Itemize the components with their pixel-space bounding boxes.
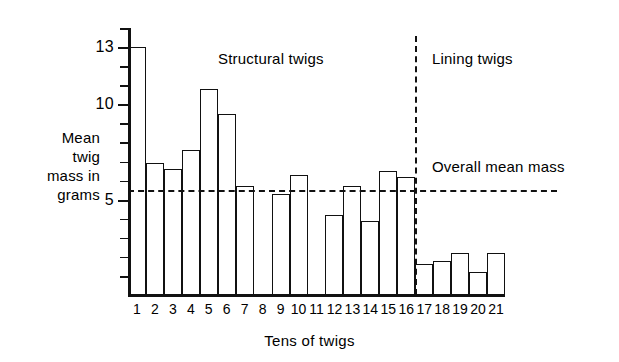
y-axis-tick — [120, 162, 128, 164]
y-axis-tick — [120, 276, 128, 278]
bar — [272, 194, 290, 295]
x-axis-tick-label: 4 — [182, 301, 200, 317]
x-axis-tick-label: 16 — [397, 301, 415, 317]
bar — [361, 221, 379, 295]
x-axis-tick-label: 2 — [146, 301, 164, 317]
bar — [487, 253, 505, 295]
bar — [325, 215, 343, 295]
y-axis-tick — [120, 142, 128, 144]
overall-mean-mass-line — [128, 190, 557, 192]
bar — [164, 169, 182, 295]
bar — [451, 253, 469, 295]
y-axis-tick — [120, 66, 128, 68]
x-axis-tick-label: 9 — [272, 301, 290, 317]
y-axis-tick — [120, 123, 128, 125]
bar — [146, 163, 164, 295]
x-axis-tick-label: 8 — [254, 301, 272, 317]
x-axis-title: Tens of twigs — [0, 332, 619, 349]
y-axis-tick-label: 5 — [80, 192, 114, 208]
annotation-lining-twigs: Lining twigs — [432, 50, 513, 67]
annotation-structural-twigs: Structural twigs — [218, 50, 324, 67]
x-axis-tick-label: 5 — [200, 301, 218, 317]
y-axis-tick — [120, 28, 128, 30]
x-axis-tick-label: 10 — [290, 301, 308, 317]
bar — [218, 114, 236, 295]
x-axis-tick-label: 7 — [236, 301, 254, 317]
bar — [397, 177, 415, 295]
bar — [469, 272, 487, 295]
y-axis-tick — [120, 238, 128, 240]
x-axis-tick-label: 21 — [487, 301, 505, 317]
group-divider-line — [415, 36, 417, 295]
x-axis-tick-label: 19 — [451, 301, 469, 317]
bar — [290, 175, 308, 295]
y-axis-tick-label: 10 — [80, 96, 114, 112]
x-axis-tick-label: 13 — [343, 301, 361, 317]
x-axis-tick-label: 3 — [164, 301, 182, 317]
x-axis-tick-label: 6 — [218, 301, 236, 317]
x-axis-tick-label: 1 — [128, 301, 146, 317]
bar — [182, 150, 200, 295]
y-axis-tick — [120, 181, 128, 183]
x-axis-tick-label: 15 — [379, 301, 397, 317]
y-axis-tick — [120, 219, 128, 221]
y-axis-tick — [120, 85, 128, 87]
bar — [236, 186, 254, 295]
x-axis-tick-label: 11 — [308, 301, 326, 317]
bar — [415, 264, 433, 295]
bar — [433, 261, 451, 295]
x-axis-tick-label: 20 — [469, 301, 487, 317]
x-axis-tick-label: 17 — [415, 301, 433, 317]
x-axis-tick-label: 14 — [361, 301, 379, 317]
annotation-overall-mean-mass: Overall mean mass — [432, 158, 565, 175]
bar — [128, 47, 146, 295]
x-axis-tick-label: 12 — [325, 301, 343, 317]
bar — [343, 186, 361, 295]
x-axis-tick-label: 18 — [433, 301, 451, 317]
chart-figure: Mean twig mass in grams 13105 Structural… — [0, 0, 619, 362]
y-axis-tick-label: 13 — [80, 39, 114, 55]
y-axis-tick — [120, 257, 128, 259]
